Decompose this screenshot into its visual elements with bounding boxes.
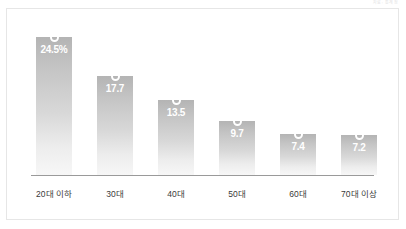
- bar-top-marker-icon: [233, 117, 242, 126]
- bar-value-label: 7.2: [341, 142, 377, 153]
- chart-frame: 24.5% 17.7 13.5 9.7 7.4: [6, 8, 399, 220]
- bar-top-marker-icon: [111, 72, 120, 81]
- plot-area: 24.5% 17.7 13.5 9.7 7.4: [7, 9, 398, 219]
- bar-top-marker-icon: [294, 130, 303, 139]
- bar-value-label: 13.5: [158, 107, 194, 118]
- bar-top-marker-icon: [355, 131, 364, 140]
- x-axis-label-0: 20대 이하: [24, 187, 84, 199]
- bar-0[interactable]: [36, 37, 72, 175]
- x-axis-line: [31, 175, 374, 176]
- x-axis-label-3: 50대: [207, 187, 267, 199]
- bar-value-label: 17.7: [97, 83, 133, 94]
- x-axis-label-1: 30대: [85, 187, 145, 199]
- x-axis-label-5: 70대 이상: [329, 187, 389, 199]
- bar-value-label: 24.5%: [36, 44, 72, 55]
- chart-screenshot: 자료: 통계청 24.5% 17.7 13.5 9.7: [0, 0, 406, 229]
- x-axis-label-2: 40대: [146, 187, 206, 199]
- bar-value-label: 9.7: [219, 128, 255, 139]
- x-axis-label-4: 60대: [268, 187, 328, 199]
- bar-top-marker-icon: [172, 96, 181, 105]
- bar-5[interactable]: [341, 135, 377, 175]
- bar-value-label: 7.4: [280, 141, 316, 152]
- bar-top-marker-icon: [50, 33, 59, 42]
- source-watermark: 자료: 통계청: [373, 0, 398, 6]
